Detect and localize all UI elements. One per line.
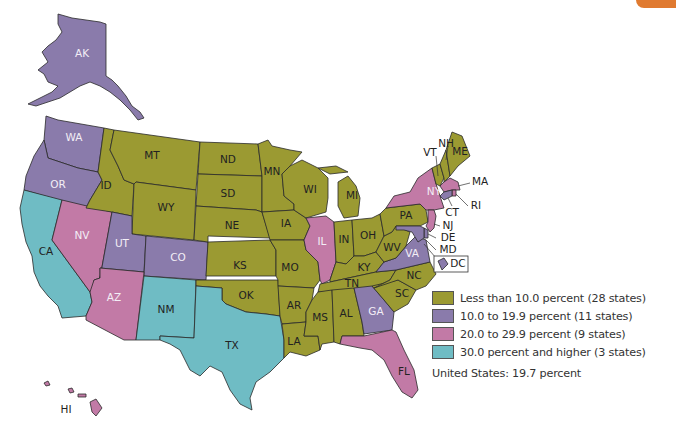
legend-swatch-high	[432, 327, 454, 341]
state-label-GA: GA	[368, 305, 384, 317]
state-CT[interactable]	[440, 190, 452, 200]
state-label-WV: WV	[383, 241, 401, 253]
state-label-CA: CA	[39, 245, 54, 257]
state-RI[interactable]	[452, 190, 456, 196]
state-label-SD: SD	[221, 187, 236, 199]
state-FL[interactable]: FL	[340, 330, 418, 398]
state-label-NY: NY	[427, 185, 442, 197]
state-label-NV: NV	[74, 229, 90, 241]
state-HI[interactable]: HI	[44, 381, 102, 416]
state-label-KS: KS	[233, 259, 247, 271]
legend: Less than 10.0 percent (28 states) 10.0 …	[432, 289, 665, 380]
state-label-NE: NE	[225, 219, 240, 231]
state-label-MA: MA	[472, 175, 489, 187]
state-label-WY: WY	[158, 201, 175, 213]
legend-swatch-low	[432, 291, 454, 305]
state-label-AR: AR	[287, 299, 301, 311]
state-label-IL: IL	[318, 235, 327, 247]
state-label-WI: WI	[303, 183, 316, 195]
state-label-OR: OR	[50, 178, 66, 190]
state-label-LA: LA	[287, 335, 301, 347]
state-label-OH: OH	[360, 229, 376, 241]
state-label-UT: UT	[115, 237, 130, 249]
state-AK[interactable]: AK	[28, 14, 144, 120]
state-label-FL: FL	[398, 365, 410, 377]
legend-item-top: 30.0 percent and higher (3 states)	[432, 343, 665, 361]
state-CO[interactable]: CO	[144, 236, 208, 280]
state-ND[interactable]: ND	[198, 142, 262, 176]
state-KS[interactable]: KS	[206, 240, 276, 276]
state-label-DC: DC	[450, 257, 465, 269]
state-label-ME: ME	[452, 145, 468, 157]
legend-swatch-top	[432, 345, 454, 359]
state-label-MD: MD	[439, 243, 456, 255]
state-label-IN: IN	[339, 233, 350, 245]
state-label-TX: TX	[224, 339, 239, 351]
state-label-VT: VT	[423, 146, 437, 158]
state-label-KY: KY	[358, 261, 372, 273]
state-label-MN: MN	[264, 165, 281, 177]
state-label-VA: VA	[405, 247, 420, 259]
state-IN[interactable]: IN	[334, 220, 354, 264]
state-label-MT: MT	[144, 149, 160, 161]
state-label-AK: AK	[75, 47, 90, 59]
legend-label-low: Less than 10.0 percent (28 states)	[460, 292, 646, 305]
state-label-NH: NH	[438, 137, 454, 149]
legend-label-high: 20.0 to 29.9 percent (9 states)	[460, 328, 626, 341]
state-label-ND: ND	[220, 153, 236, 165]
state-label-NM: NM	[158, 303, 175, 315]
state-label-NJ: NJ	[443, 219, 454, 231]
legend-item-mid: 10.0 to 19.9 percent (11 states)	[432, 307, 665, 325]
state-label-IA: IA	[281, 217, 292, 229]
state-label-MO: MO	[281, 261, 298, 273]
state-label-ID: ID	[100, 179, 111, 191]
dc-inset[interactable]: DC	[434, 256, 468, 272]
state-label-DE: DE	[441, 231, 456, 243]
legend-label-mid: 10.0 to 19.9 percent (11 states)	[460, 310, 632, 323]
state-label-MI: MI	[346, 189, 358, 201]
state-label-RI: RI	[471, 199, 481, 211]
legend-label-top: 30.0 percent and higher (3 states)	[460, 346, 646, 359]
legend-item-low: Less than 10.0 percent (28 states)	[432, 289, 665, 307]
state-label-CO: CO	[170, 251, 186, 263]
legend-item-high: 20.0 to 29.9 percent (9 states)	[432, 325, 665, 343]
state-label-NC: NC	[406, 269, 421, 281]
state-label-OK: OK	[238, 289, 254, 301]
state-label-PA: PA	[400, 209, 414, 221]
state-label-CT: CT	[445, 206, 459, 218]
state-label-HI: HI	[61, 403, 72, 415]
state-label-AZ: AZ	[107, 291, 121, 303]
legend-swatch-mid	[432, 309, 454, 323]
state-DE[interactable]	[424, 228, 428, 238]
state-label-WA: WA	[66, 131, 84, 143]
state-NM[interactable]: NM	[136, 276, 196, 340]
state-label-TN: TN	[344, 277, 359, 289]
state-WY[interactable]: WY	[132, 182, 196, 240]
state-label-SC: SC	[395, 287, 409, 299]
state-NE[interactable]: NE	[194, 206, 270, 242]
legend-us-total: United States: 19.7 percent	[432, 367, 665, 380]
state-label-MS: MS	[312, 311, 328, 323]
state-label-AL: AL	[339, 307, 352, 319]
